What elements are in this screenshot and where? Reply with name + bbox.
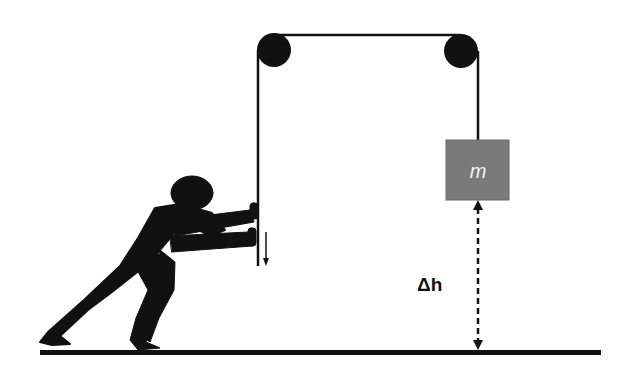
- force-arrow-down-icon: [263, 232, 269, 266]
- height-arrow: [473, 200, 483, 350]
- person-pulling-icon: [40, 176, 258, 350]
- ground-line: [40, 350, 601, 355]
- mass-block: m: [446, 140, 509, 200]
- diagram-canvas: m Δh: [0, 0, 631, 370]
- mass-label: m: [470, 160, 487, 182]
- rope: [258, 35, 478, 266]
- pulley-diagram: m Δh: [0, 0, 631, 370]
- right-pulley-icon: [444, 34, 478, 68]
- height-label: Δh: [417, 274, 442, 295]
- left-pulley-icon: [257, 33, 291, 67]
